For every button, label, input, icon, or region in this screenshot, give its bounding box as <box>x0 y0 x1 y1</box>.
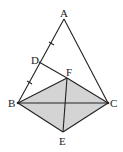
point-c-dot <box>107 102 110 105</box>
label-f: F <box>66 66 72 78</box>
segment-df <box>39 62 67 78</box>
label-a: A <box>60 7 68 19</box>
label-d: D <box>31 54 39 66</box>
label-e: E <box>59 135 66 147</box>
geometry-diagram: A B C D E F <box>0 0 123 152</box>
label-b: B <box>8 97 15 109</box>
shaded-quadrilateral-bfce <box>18 78 108 132</box>
point-b-dot <box>17 102 20 105</box>
label-c: C <box>110 97 117 109</box>
